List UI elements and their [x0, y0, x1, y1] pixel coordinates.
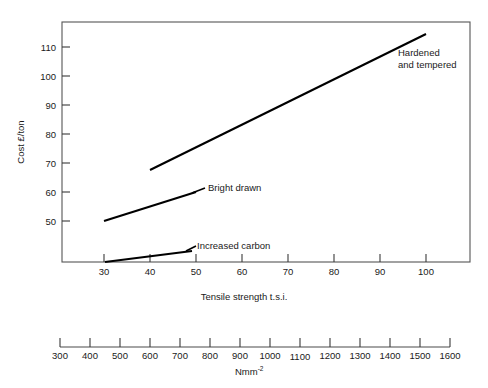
secondary-axis-title: Nmm-2 [235, 365, 264, 377]
secondary-tick-label: 400 [82, 350, 98, 361]
secondary-tick-label: 1400 [379, 350, 400, 361]
secondary-tick-label: 1000 [259, 350, 280, 361]
secondary-tick-label: 1600 [439, 350, 460, 361]
secondary-axis-unit-exponent: -2 [258, 365, 264, 372]
x-tick-label: 80 [329, 266, 340, 277]
cost-vs-tensile-strength-chart: 110 100 90 80 70 60 50 Cost £/ton 30 40 … [0, 0, 488, 388]
y-tick-label: 100 [40, 71, 56, 82]
secondary-tick-label: 600 [142, 350, 158, 361]
series-label-bright-drawn: Bright drawn [208, 182, 261, 193]
x-axis-title: Tensile strength t.s.i. [201, 291, 288, 302]
y-tick-label: 80 [45, 129, 56, 140]
y-tick-label: 110 [41, 42, 56, 53]
y-tick-label: 50 [45, 216, 56, 227]
y-axis-tick-labels: 110 100 90 80 70 60 50 [40, 42, 56, 227]
x-tick-label: 30 [99, 266, 110, 277]
x-tick-label: 100 [418, 266, 434, 277]
leader-line-bright-drawn [192, 188, 205, 193]
series-label-hardened-line1: Hardened [398, 47, 440, 58]
secondary-axis-unit-base: Nmm [235, 366, 258, 377]
y-axis-title: Cost £/ton [15, 120, 26, 163]
series-label-hardened-line2: and tempered [398, 59, 457, 70]
series-line-hardened-and-tempered [150, 34, 426, 170]
x-tick-label: 90 [375, 266, 386, 277]
secondary-tick-label: 1100 [290, 351, 310, 362]
secondary-tick-label: 1500 [409, 350, 430, 361]
y-axis-ticks [62, 47, 70, 221]
chart-figure: 110 100 90 80 70 60 50 Cost £/ton 30 40 … [0, 0, 488, 388]
x-tick-label: 70 [283, 266, 294, 277]
series-label-increased-carbon: Increased carbon [197, 240, 270, 251]
y-tick-label: 90 [45, 100, 56, 111]
x-axis-tick-labels: 30 40 50 60 70 80 90 100 [99, 266, 434, 277]
secondary-tick-label: 800 [202, 350, 218, 361]
series-line-bright-drawn [104, 192, 196, 221]
secondary-axis [60, 338, 450, 347]
secondary-tick-label: 500 [112, 350, 128, 361]
x-tick-label: 50 [191, 266, 202, 277]
x-tick-label: 40 [145, 266, 156, 277]
plot-frame [62, 22, 470, 262]
secondary-tick-label: 1200 [319, 350, 340, 361]
series-line-increased-carbon [105, 251, 192, 262]
x-tick-label: 60 [237, 266, 248, 277]
secondary-axis-tick-labels: 300 400 500 600 700 800 900 1000 1100 12… [52, 350, 461, 362]
secondary-tick-label: 900 [232, 350, 248, 361]
secondary-tick-label: 300 [52, 350, 68, 361]
y-tick-label: 70 [45, 158, 56, 169]
y-tick-label: 60 [45, 187, 56, 198]
secondary-tick-label: 700 [172, 350, 188, 361]
secondary-tick-label: 1300 [349, 350, 370, 361]
